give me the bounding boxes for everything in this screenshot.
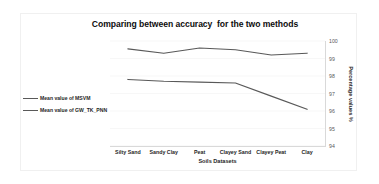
legend-entry-0[interactable]: Mean value of MSVM (23, 92, 123, 104)
category-axis-title: Soils Datasets (110, 158, 325, 164)
chart-title: Comparing between accuracy for the two m… (60, 19, 330, 29)
category-axis-tick-labels: Silty SandSandy ClayPeatClayey SandClaye… (110, 148, 325, 158)
legend-label: Mean value of GW_TK_PNN (40, 107, 107, 113)
legend-label: Mean value of MSVM (40, 95, 90, 101)
chart-figure: Comparing between accuracy for the two m… (0, 0, 379, 184)
category-tick-clay: Clay (289, 148, 325, 158)
legend-line-swatch (23, 110, 38, 111)
value-axis-line (325, 41, 326, 147)
category-tick-sandy-clay: Sandy Clay (146, 148, 182, 158)
plot-svg (110, 41, 325, 146)
series-line-1[interactable] (128, 48, 307, 55)
chart-legend: Mean value of MSVMMean value of GW_TK_PN… (23, 92, 123, 116)
category-tick-silty-sand: Silty Sand (110, 148, 146, 158)
category-tick-peat: Peat (182, 148, 218, 158)
legend-line-swatch (23, 98, 38, 99)
value-tick-94: 94 (329, 143, 347, 149)
plot-area (110, 41, 325, 146)
gridlines (110, 41, 325, 146)
legend-entry-1[interactable]: Mean value of GW_TK_PNN (23, 104, 123, 116)
category-axis-line (110, 146, 326, 147)
category-tick-clayey-peat: Clayey Peat (253, 148, 289, 158)
series-lines (128, 48, 307, 109)
category-tick-clayey-sand: Clayey Sand (217, 148, 253, 158)
value-axis-title: Percentage values % (344, 46, 354, 142)
value-tick-100: 100 (329, 38, 347, 44)
series-line-0[interactable] (128, 80, 307, 110)
